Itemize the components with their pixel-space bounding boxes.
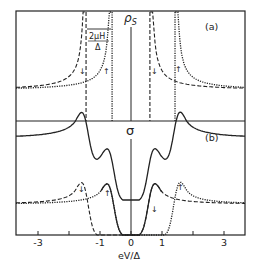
panel-b-label: (b): [205, 132, 218, 143]
x-tick-label: -1: [95, 237, 104, 248]
arrow-up-a-right: ↑: [175, 65, 182, 74]
arrow-down-b-right: ↓: [151, 205, 158, 214]
arrow-up-b-left: ↑: [104, 189, 111, 198]
rho-label: ρS: [124, 11, 137, 27]
x-tick-label: -3: [33, 237, 42, 248]
annotation-numerator: 2μH: [89, 32, 105, 41]
spin-down-dos-curve: [150, 12, 245, 88]
sigma-label: σ: [126, 123, 134, 138]
x-axis-label: eV/Δ: [118, 250, 141, 261]
arrow-up-a-left: ↑: [103, 67, 110, 76]
x-tick-label: 3: [221, 237, 227, 248]
arrow-down-b-left: ↓: [78, 185, 85, 194]
arrow-up-b-right: ↑: [177, 183, 184, 192]
x-tick-label: 1: [159, 237, 165, 248]
arrow-down-a-right: ↓: [151, 67, 158, 76]
x-axis-ticks: -3-1013: [33, 231, 227, 248]
figure: -3-1013 ρS (a) 2μH Δ σ (b) eV/Δ ↓ ↑ ↓ ↑ …: [0, 0, 257, 273]
panel-a-label: (a): [205, 21, 218, 32]
arrow-down-a-left: ↓: [79, 67, 86, 76]
x-tick-label: 0: [128, 237, 134, 248]
annotation-denominator: Δ: [95, 43, 101, 52]
spin-down-dos-curve: [16, 12, 86, 87]
